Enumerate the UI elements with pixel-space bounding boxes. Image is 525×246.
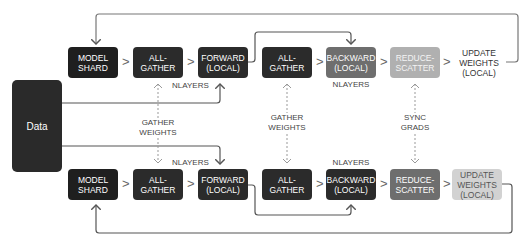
top-backward-node: BACKWARD (LOCAL) — [326, 47, 376, 78]
top-forward-loop-label: NLAYERS — [172, 81, 209, 91]
top-reduce-scatter-node: REDUCE- SCATTER — [390, 47, 440, 78]
top-all-gather-2-node: ALL- GATHER — [262, 47, 312, 78]
chevron-right-icon: > — [380, 177, 388, 190]
bottom-update-weights-node: UPDATE WEIGHTS (LOCAL) — [452, 169, 502, 200]
bottom-forward-node: FORWARD (LOCAL) — [198, 169, 248, 200]
chevron-right-icon: > — [122, 177, 130, 190]
gather-weights-1-label: GATHER WEIGHTS — [138, 118, 178, 138]
top-backward-loop-label: NLAYERS — [326, 80, 376, 90]
bottom-model-shard-node: MODEL SHARD — [68, 169, 118, 200]
chevron-right-icon: > — [122, 55, 130, 68]
bottom-reduce-scatter-node: REDUCE- SCATTER — [390, 169, 440, 200]
chevron-right-icon: > — [380, 55, 388, 68]
chevron-right-icon: > — [187, 55, 195, 68]
chevron-right-icon: > — [443, 177, 451, 190]
sync-grads-label: SYNC GRADS — [400, 113, 430, 133]
bottom-forward-loop-label: NLAYERS — [172, 158, 209, 168]
bottom-backward-node: BACKWARD (LOCAL) — [326, 169, 376, 200]
top-all-gather-1-node: ALL- GATHER — [133, 47, 183, 78]
chevron-right-icon: > — [443, 55, 451, 68]
top-update-weights-node: UPDATE WEIGHTS (LOCAL) — [452, 47, 506, 78]
bottom-all-gather-2-node: ALL- GATHER — [262, 169, 312, 200]
bottom-all-gather-1-node: ALL- GATHER — [133, 169, 183, 200]
chevron-right-icon: > — [316, 177, 324, 190]
bottom-backward-loop-label: NLAYERS — [326, 158, 376, 168]
data-node: Data — [12, 80, 62, 172]
top-model-shard-node: MODEL SHARD — [68, 47, 118, 78]
gather-weights-2-label: GATHER WEIGHTS — [267, 113, 307, 133]
top-forward-node: FORWARD (LOCAL) — [198, 47, 248, 78]
connector-lines — [0, 0, 525, 246]
chevron-right-icon: > — [187, 177, 195, 190]
chevron-right-icon: > — [316, 55, 324, 68]
